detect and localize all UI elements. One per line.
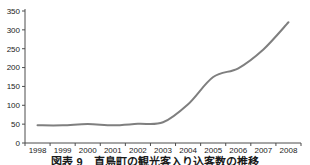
data-line (38, 22, 289, 125)
x-tick-label: 2003 (154, 146, 172, 155)
x-tick-label: 1999 (54, 146, 72, 155)
y-tick-label: 50 (11, 120, 20, 129)
x-tick-label: 2002 (129, 146, 147, 155)
line-chart: 0501001502002503003501998199920002001200… (0, 0, 310, 165)
y-tick-label: 250 (7, 45, 21, 54)
x-tick-label: 2005 (204, 146, 222, 155)
chart-caption: 図表 9 直島町の観光客入り込客数の推移 (0, 156, 310, 165)
x-tick-label: 2004 (179, 146, 197, 155)
x-tick-label: 2008 (280, 146, 298, 155)
x-tick-label: 2001 (104, 146, 122, 155)
y-tick-label: 100 (7, 101, 21, 110)
chart-canvas: 0501001502002503003501998199920002001200… (0, 0, 310, 165)
x-tick-label: 2000 (79, 146, 97, 155)
x-tick-label: 1998 (29, 146, 47, 155)
page: { "chart_data": { "type": "line", "title… (0, 0, 310, 165)
y-tick-label: 200 (7, 63, 21, 72)
y-tick-label: 300 (7, 26, 21, 35)
y-tick-label: 0 (16, 139, 21, 148)
x-tick-label: 2006 (229, 146, 247, 155)
y-tick-label: 150 (7, 82, 21, 91)
y-tick-label: 350 (7, 7, 21, 16)
x-tick-label: 2007 (254, 146, 272, 155)
